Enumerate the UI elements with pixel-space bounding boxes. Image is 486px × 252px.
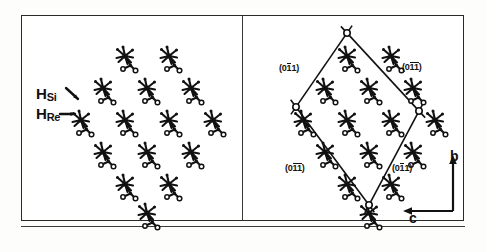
- miller-br-prefix: (0: [392, 163, 400, 173]
- molecule: [316, 142, 338, 169]
- molecule-cluster: [72, 46, 226, 230]
- molecule: [116, 46, 138, 73]
- label-h-si: HSi: [36, 86, 56, 103]
- miller-tl-prefix: (0: [279, 63, 287, 73]
- molecule: [404, 78, 426, 105]
- crystal-vertex-1: [416, 108, 422, 114]
- miller-index-bottom-left: (011): [285, 163, 305, 173]
- figure-underline: [21, 226, 465, 227]
- crystal-vertex-3: [293, 104, 299, 110]
- figure-root: HSi HRe (011) (011) (011) (011) b c: [0, 0, 486, 252]
- miller-bl-prefix: (0: [285, 163, 293, 173]
- crystal-vertex-0: [344, 30, 350, 36]
- molecule: [426, 110, 448, 137]
- molecule: [94, 142, 116, 169]
- axis-label-b: b: [450, 148, 458, 164]
- miller-br-suffix: 1): [404, 163, 412, 173]
- miller-bl-overbar: 11: [293, 163, 302, 173]
- molecule: [182, 142, 204, 169]
- miller-tr-suffix: ): [419, 62, 422, 72]
- molecule: [316, 78, 338, 105]
- miller-tr-prefix: (0: [402, 62, 410, 72]
- label-h-re-sub: Re: [47, 111, 60, 123]
- miller-tr-overbar: 11: [410, 62, 419, 72]
- molecule: [382, 110, 404, 137]
- molecule: [360, 142, 382, 169]
- molecule: [160, 174, 182, 201]
- axis-label-c: c: [409, 210, 417, 226]
- molecule: [382, 174, 404, 201]
- molecule: [360, 78, 382, 105]
- molecule: [94, 78, 116, 105]
- right-panel-drawing: [243, 15, 464, 221]
- molecule: [160, 46, 182, 73]
- arrow-h-si: [66, 88, 78, 99]
- molecule: [116, 174, 138, 201]
- miller-bl-suffix: ): [302, 163, 305, 173]
- molecule: [160, 110, 182, 137]
- label-h-si-sub: Si: [47, 91, 57, 103]
- miller-index-top-left: (011): [279, 63, 299, 73]
- label-h-re: HRe: [36, 106, 60, 123]
- crystal-vertex-2: [366, 202, 372, 208]
- miller-index-bottom-right: (011): [392, 163, 412, 173]
- crystal-face-edge-1: [341, 26, 425, 117]
- molecule: [338, 110, 360, 137]
- molecule: [204, 110, 226, 137]
- crystal-outline: [291, 26, 425, 213]
- molecule: [338, 46, 360, 73]
- miller-tl-suffix: 1): [291, 63, 299, 73]
- molecule: [294, 110, 316, 137]
- molecule: [382, 46, 404, 73]
- miller-index-top-right: (011): [402, 62, 422, 72]
- molecule: [116, 110, 138, 137]
- label-h-si-base: H: [36, 85, 47, 102]
- label-h-re-base: H: [36, 105, 47, 122]
- molecule: [138, 78, 160, 105]
- molecule: [182, 78, 204, 105]
- molecule: [138, 142, 160, 169]
- right-panel: [243, 15, 464, 221]
